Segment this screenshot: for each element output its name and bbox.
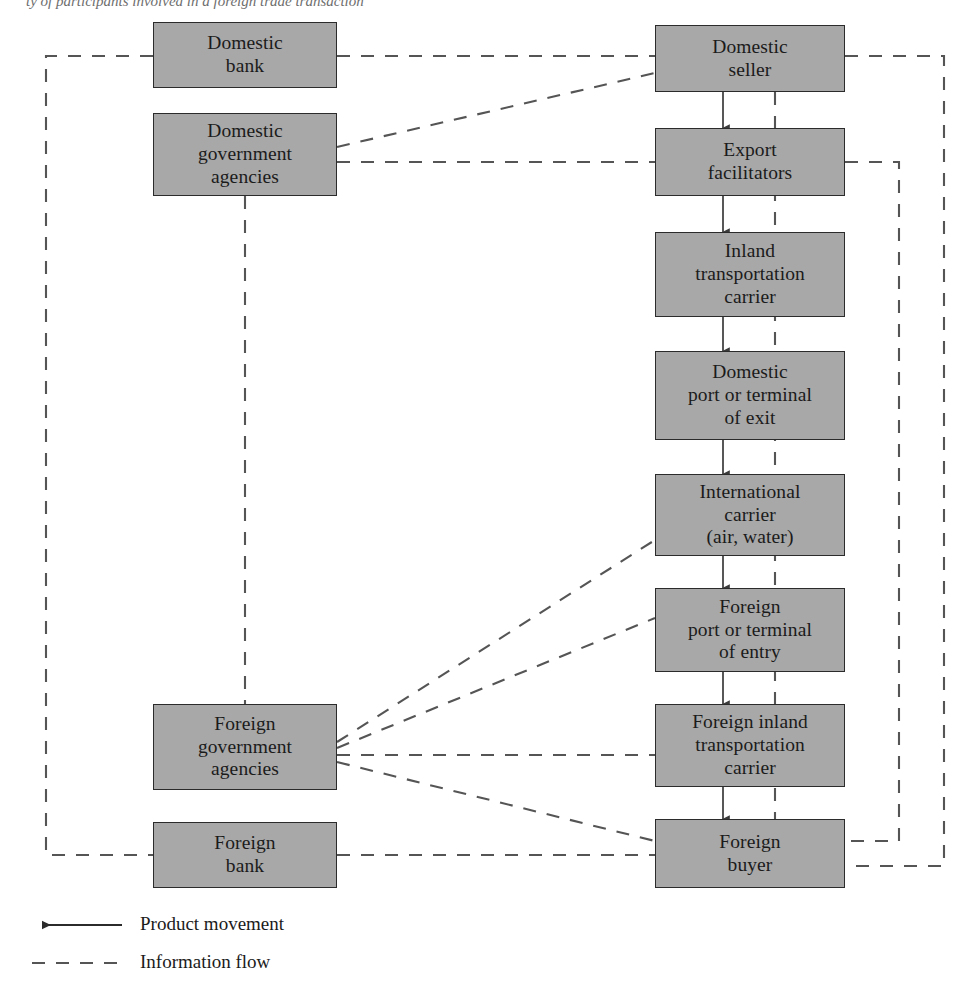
diagram-page: ty of participants involved in a foreign… [0,0,979,998]
node-domestic-bank[interactable]: Domestic bank [153,22,337,88]
node-domestic-seller[interactable]: Domestic seller [655,25,845,92]
node-domestic-port-or-terminal-of-exit[interactable]: Domestic port or terminal of exit [655,351,845,440]
node-foreign-government-agencies[interactable]: Foreign government agencies [153,704,337,790]
link-domestic-gov-to-domestic-seller-diagonal [337,73,655,147]
link-foreign-gov-to-foreign-buyer [337,762,655,841]
legend-line-samples [32,925,122,963]
node-export-facilitators[interactable]: Export facilitators [655,128,845,196]
node-inland-transportation-carrier[interactable]: Inland transportation carrier [655,232,845,317]
node-foreign-port-or-terminal-of-entry[interactable]: Foreign port or terminal of entry [655,588,845,672]
link-domestic-bank-left-loop-to-foreign-bank [46,56,153,855]
link-domestic-seller-right-loop-to-foreign-buyer [845,56,944,866]
figure-caption-text: ty of participants involved in a foreign… [26,0,364,10]
node-foreign-bank[interactable]: Foreign bank [153,822,337,888]
link-foreign-gov-to-international-carrier [337,540,655,742]
link-foreign-gov-to-foreign-port [337,618,655,748]
node-domestic-government-agencies[interactable]: Domestic government agencies [153,113,337,196]
link-export-facilitators-right-loop-to-foreign-buyer [845,162,899,841]
figure-caption-clipped: ty of participants involved in a foreign… [0,0,979,14]
node-foreign-inland-transportation-carrier[interactable]: Foreign inland transportation carrier [655,704,845,787]
node-international-carrier[interactable]: International carrier (air, water) [655,474,845,556]
node-foreign-buyer[interactable]: Foreign buyer [655,819,845,888]
